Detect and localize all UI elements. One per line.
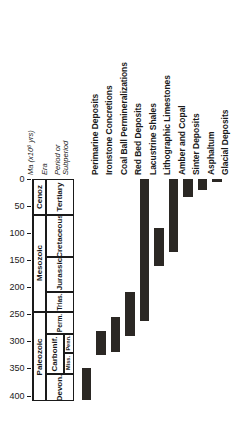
category-label-perimarine-deposits: Perimarine Deposits [91, 94, 100, 175]
range-bar-perimarine-deposits [82, 368, 92, 401]
period-cell-carbonif: Carbonif. [46, 334, 64, 374]
era-cell-label: Cenoz [36, 185, 44, 209]
y-tick-mark-350 [27, 368, 31, 369]
category-label-coal-ball-permineralizations: Coal Ball Permineralizations [120, 62, 129, 175]
subperiod-cell-label: Penn. [66, 336, 72, 351]
y-tick-label-200: 200 [0, 283, 25, 292]
category-label-lacustrine-shales: Lacustrine Shales [149, 103, 158, 175]
y-tick-mark-300 [27, 341, 31, 342]
period-cell-label: Devon. [56, 375, 64, 402]
range-bar-red-bed-deposits [125, 292, 135, 336]
range-bar-coal-ball-permineralizations [111, 317, 121, 351]
range-bar-amber-and-copal [169, 179, 179, 252]
range-bar-lithographic-limestones [154, 228, 164, 266]
category-label-ironstone-concretions: Ironstone Concretions [105, 85, 114, 175]
range-bar-lacustrine-shales [140, 179, 150, 321]
y-tick-label-0: 0 [0, 175, 25, 184]
era-cell-cenoz: Cenoz [33, 179, 46, 215]
period-cell-tertiary: Tertiary [46, 179, 74, 215]
y-tick-label-100: 100 [0, 229, 25, 238]
period-cell-trias: Trias. [46, 292, 74, 312]
period-cell-jurassic: Jurassic [46, 257, 74, 292]
category-label-red-bed-deposits: Red Bed Deposits [134, 103, 143, 175]
geologic-time-range-chart: Ma (x10⁶ yrs)EraPeriod orSubperiodPerima… [0, 0, 246, 444]
y-tick-label-250: 250 [0, 310, 25, 319]
category-label-asphaltum: Asphaltum [207, 132, 216, 175]
category-label-lithographic-limestones: Lithographic Limestones [163, 75, 172, 175]
category-label-amber-and-copal: Amber and Copal [178, 105, 187, 175]
period-cell-cretaceous: Cretaceous [46, 215, 74, 257]
ma-axis-header: Ma (x10⁶ yrs) [27, 130, 35, 175]
range-bar-ironstone-concretions [96, 331, 106, 355]
range-bar-sinter-deposits [183, 179, 193, 197]
era-cell-mesozoic: Mesozoic [33, 215, 46, 312]
period-cell-label: Perm. [57, 314, 64, 332]
y-tick-mark-200 [27, 287, 31, 288]
y-tick-mark-0 [27, 179, 31, 180]
subperiod-cell-miss: Miss. [64, 353, 74, 375]
y-tick-label-300: 300 [0, 337, 25, 346]
category-label-glacial-deposits: Glacial Deposits [221, 110, 230, 175]
y-tick-mark-400 [27, 396, 31, 397]
subperiod-cell-label: Miss. [66, 356, 72, 370]
era-cell-label: Paleozoic [36, 338, 44, 375]
period-cell-label: Jurassic [56, 258, 64, 290]
y-tick-label-400: 400 [0, 392, 25, 401]
y-tick-mark-250 [27, 314, 31, 315]
period-cell-label: Cretaceous [56, 215, 64, 257]
period-cell-label: Trias. [57, 293, 64, 310]
period-cell-label: Carbonif. [51, 337, 59, 372]
y-tick-mark-150 [27, 260, 31, 261]
y-tick-mark-50 [27, 206, 31, 207]
y-tick-label-150: 150 [0, 256, 25, 265]
period-cell-devon: Devon. [46, 374, 74, 401]
period-column-header-line2: Subperiod [62, 141, 70, 175]
era-column-header: Era [41, 163, 49, 175]
era-cell-paleozoic: Paleozoic [33, 312, 46, 402]
y-tick-label-50: 50 [0, 202, 25, 211]
range-bar-glacial-deposits [212, 179, 222, 182]
period-cell-label: Tertiary [56, 183, 64, 212]
era-cell-label: Mesozoic [36, 245, 44, 281]
period-cell-perm: Perm. [46, 312, 74, 334]
subperiod-cell-penn: Penn. [64, 334, 74, 352]
y-tick-mark-100 [27, 233, 31, 234]
range-bar-asphaltum [198, 179, 208, 190]
y-tick-label-350: 350 [0, 364, 25, 373]
category-label-sinter-deposits: Sinter Deposits [192, 113, 201, 175]
